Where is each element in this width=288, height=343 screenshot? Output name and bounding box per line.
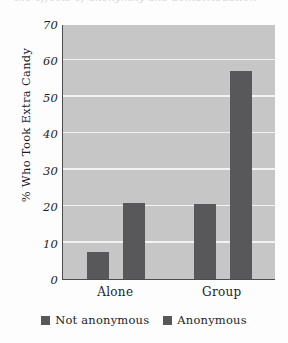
- legend-label: Anonymous: [177, 313, 246, 327]
- y-tick-label: 50: [12, 91, 58, 105]
- gridline: [63, 59, 275, 61]
- y-tick-label: 20: [12, 200, 58, 214]
- legend-item: Anonymous: [163, 313, 246, 327]
- y-tick-label: 10: [12, 237, 58, 251]
- y-tick-label: 30: [12, 164, 58, 178]
- legend-swatch-icon: [41, 316, 50, 325]
- x-axis-tick-labels: AloneGroup: [62, 285, 275, 303]
- bar: [87, 252, 109, 279]
- y-axis-tick-labels: 706050403020100: [10, 25, 58, 280]
- legend-swatch-icon: [163, 316, 172, 325]
- x-tick-label: Alone: [70, 285, 160, 299]
- x-tick-label: Group: [177, 285, 267, 299]
- bar: [194, 204, 216, 279]
- bar: [230, 71, 252, 279]
- y-tick-label: 60: [12, 54, 58, 68]
- y-tick-label: 0: [12, 273, 58, 287]
- y-tick-label: 40: [12, 127, 58, 141]
- bar-chart-figure: % Who Took Extra Candy 706050403020100 A…: [0, 0, 288, 343]
- y-tick-label: 70: [12, 18, 58, 32]
- legend-item: Not anonymous: [41, 313, 149, 327]
- chart-legend: Not anonymousAnonymous: [0, 313, 288, 327]
- legend-label: Not anonymous: [55, 313, 149, 327]
- bar: [123, 203, 145, 280]
- plot-area: [62, 25, 275, 280]
